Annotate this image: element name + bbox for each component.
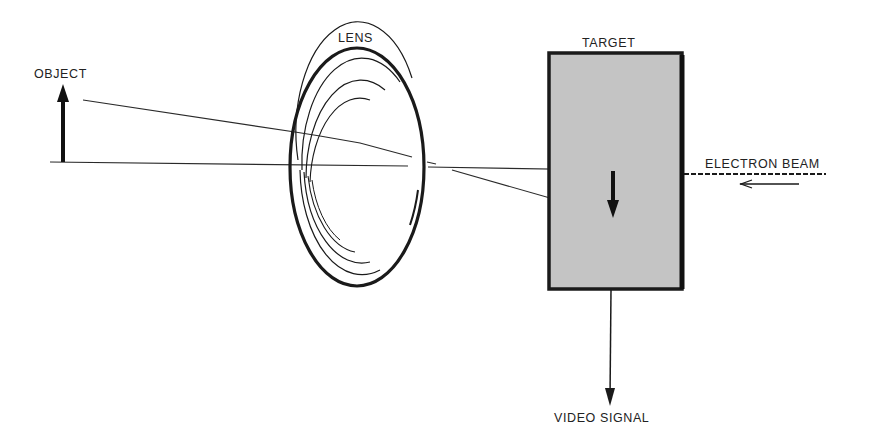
optical-axis-line: [50, 162, 408, 166]
lens-icon: [290, 22, 424, 286]
object-label: OBJECT: [34, 68, 87, 81]
video-signal-label: VIDEO SIGNAL: [554, 412, 649, 425]
video-signal-arrow-icon: [605, 290, 615, 406]
lens-label: LENS: [338, 32, 373, 45]
electron-beam-label: ELECTRON BEAM: [705, 158, 820, 171]
target-plate: [549, 53, 682, 289]
light-ray-segment: [427, 162, 436, 164]
light-ray: [83, 100, 412, 157]
object-arrow-icon: [57, 84, 69, 162]
electron-beam-direction-arrow-icon: [740, 180, 799, 188]
target-label: TARGET: [582, 37, 635, 50]
